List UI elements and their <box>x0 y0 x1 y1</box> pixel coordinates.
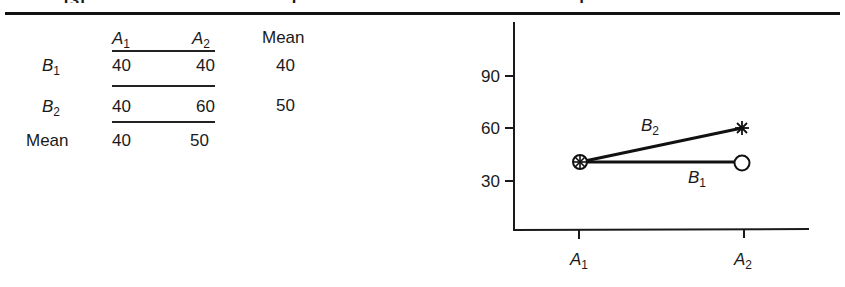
x-axis <box>513 229 809 230</box>
marker-a1-overlap-icon <box>573 155 587 169</box>
y-tick-label-90: 90 <box>481 67 500 86</box>
asterisk-marker-icon <box>735 121 749 135</box>
series-b2-line <box>580 128 742 162</box>
y-tick-label-30: 30 <box>481 172 500 191</box>
interaction-plot: 90 60 30 A1 A2 B2 B1 <box>0 0 845 287</box>
series-label-b1: B1 <box>688 168 706 190</box>
series-label-b2: B2 <box>641 116 659 138</box>
x-tick-label-a1: A1 <box>569 250 588 272</box>
y-tick-label-60: 60 <box>481 119 500 138</box>
open-circle-marker-icon <box>735 156 750 171</box>
x-tick-label-a2: A2 <box>733 250 752 272</box>
